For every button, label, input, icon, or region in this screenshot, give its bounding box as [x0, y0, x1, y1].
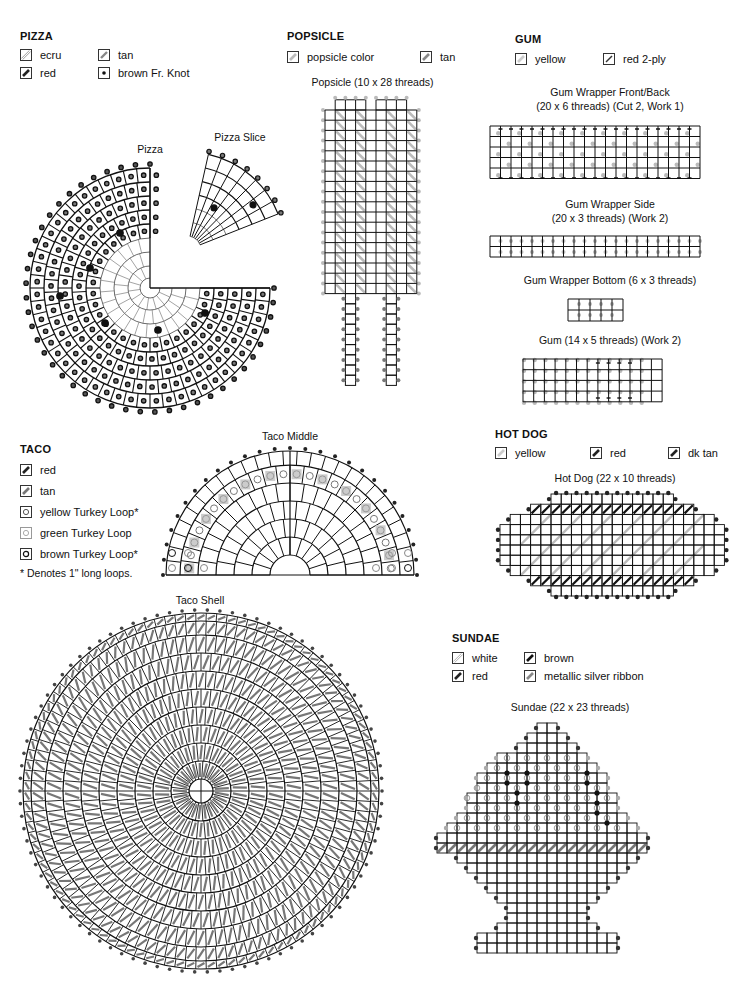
legend-item-hotdog-yellow: yellow: [495, 447, 590, 459]
legend-item-brown-knot: brown Fr. Knot: [98, 67, 190, 79]
swatch-red-2ply-icon: [603, 53, 615, 65]
swatch-dk-tan-icon: [668, 447, 680, 459]
legend-item-taco-tan: tan: [20, 480, 138, 501]
swatch-brown-loop-icon: [20, 548, 32, 560]
sundae-legend: white brown red metallic silver ribbon: [452, 649, 644, 685]
popsicle-section-title: POPSICLE: [287, 30, 344, 42]
swatch-popsicle-color-icon: [287, 51, 299, 63]
legend-item-popsicle-tan: tan: [420, 51, 455, 63]
legend-item-hotdog-red: red: [590, 447, 668, 459]
gum-wrapper-side-chart: [489, 235, 701, 261]
legend-item-gum-yellow: yellow: [515, 53, 603, 65]
legend-item-sundae-silver: metallic silver ribbon: [524, 670, 644, 682]
pizza-slice-chart: [175, 145, 285, 265]
swatch-yellow-icon: [515, 53, 527, 65]
legend-item-taco-yellow-loop: yellow Turkey Loop*: [20, 501, 138, 522]
swatch-white-icon: [452, 652, 464, 664]
swatch-tan-icon: [420, 51, 432, 63]
legend-item-taco-green-loop: green Turkey Loop: [20, 522, 138, 543]
gum-wrapper-front-caption: Gum Wrapper Front/Back (20 x 6 threads) …: [485, 85, 735, 113]
gum-chart: [520, 356, 670, 406]
legend-item-hotdog-dktan: dk tan: [668, 447, 718, 459]
legend-item-taco-red: red: [20, 459, 138, 480]
swatch-brown-icon: [524, 652, 536, 664]
gum-legend: yellow red 2-ply: [515, 50, 666, 68]
taco-middle-chart: [160, 445, 420, 580]
gum-caption: Gum (14 x 5 threads) (Work 2): [485, 333, 735, 347]
legend-item-ecru: ecru: [20, 49, 98, 61]
swatch-tan-icon: [20, 485, 32, 497]
hotdog-caption: Hot Dog (22 x 10 threads): [520, 471, 710, 485]
gum-wrapper-side-caption: Gum Wrapper Side (20 x 3 threads) (Work …: [485, 197, 735, 225]
legend-item-taco-brown-loop: brown Turkey Loop*: [20, 543, 138, 564]
swatch-green-loop-icon: [20, 527, 32, 539]
taco-middle-caption: Taco Middle: [240, 429, 340, 443]
legend-item-popsicle-color: popsicle color: [287, 51, 420, 63]
pizza-section-title: PIZZA: [20, 30, 53, 42]
taco-legend: red tan yellow Turkey Loop* green Turkey…: [20, 459, 138, 582]
swatch-yellow-icon: [495, 447, 507, 459]
gum-wrapper-bottom-caption: Gum Wrapper Bottom (6 x 3 threads): [485, 273, 735, 287]
gum-wrapper-front-chart: [489, 125, 701, 185]
swatch-red-icon: [20, 464, 32, 476]
swatch-red-icon: [452, 670, 464, 682]
gum-section-title: GUM: [515, 33, 541, 45]
legend-item-sundae-white: white: [452, 652, 524, 664]
gum-wrapper-bottom-chart: [567, 298, 625, 324]
legend-item-sundae-red: red: [452, 670, 524, 682]
taco-shell-caption: Taco Shell: [150, 593, 250, 607]
popsicle-legend: popsicle color tan: [287, 48, 455, 66]
legend-item-sundae-brown: brown: [524, 652, 574, 664]
swatch-tan-icon: [98, 49, 110, 61]
taco-section-title: TACO: [20, 443, 51, 455]
legend-item-gum-red: red 2-ply: [603, 53, 666, 65]
popsicle-chart: [320, 98, 430, 408]
hotdog-chart: [490, 490, 740, 600]
swatch-ecru-icon: [20, 49, 32, 61]
legend-item-red: red: [20, 67, 98, 79]
taco-shell-chart: [20, 610, 382, 972]
swatch-red-icon: [590, 447, 602, 459]
taco-footnote: * Denotes 1" long loops.: [20, 564, 138, 582]
swatch-french-knot-icon: [98, 67, 110, 79]
hotdog-section-title: HOT DOG: [495, 428, 548, 440]
popsicle-caption: Popsicle (10 x 28 threads): [285, 75, 460, 89]
sundae-chart: [432, 718, 662, 988]
pizza-legend: ecru tan red brown Fr. Knot: [20, 46, 260, 82]
legend-item-tan: tan: [98, 49, 133, 61]
swatch-red-icon: [20, 67, 32, 79]
hotdog-legend: yellow red dk tan: [495, 444, 718, 462]
sundae-section-title: SUNDAE: [452, 632, 500, 644]
swatch-yellow-loop-icon: [20, 506, 32, 518]
sundae-caption: Sundae (22 x 23 threads): [480, 700, 660, 714]
swatch-silver-ribbon-icon: [524, 670, 536, 682]
